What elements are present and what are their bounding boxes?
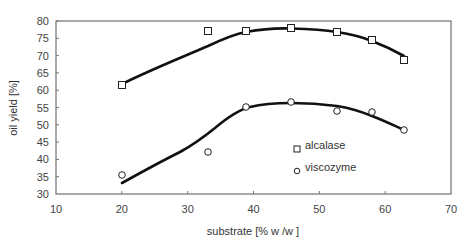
y-tick: 45 bbox=[37, 136, 49, 148]
square-marker bbox=[334, 29, 341, 36]
y-tick: 30 bbox=[37, 188, 49, 200]
circle-marker bbox=[205, 149, 212, 156]
y-axis: 80 75 70 65 60 55 50 45 40 35 30 oil yie… bbox=[7, 15, 59, 200]
x-tick: 10 bbox=[50, 203, 62, 215]
x-axis-label: substrate [% w /w ] bbox=[207, 225, 299, 237]
circle-marker bbox=[243, 104, 250, 111]
circle-marker bbox=[288, 99, 295, 106]
alcalase-markers bbox=[119, 25, 408, 89]
square-marker bbox=[119, 82, 126, 89]
legend-label-viscozyme: viscozyme bbox=[305, 161, 356, 173]
square-marker bbox=[243, 28, 250, 35]
circle-marker bbox=[334, 108, 341, 115]
y-tick: 55 bbox=[37, 102, 49, 114]
y-tick: 80 bbox=[37, 15, 49, 27]
x-tick: 50 bbox=[313, 203, 325, 215]
y-tick: 65 bbox=[37, 67, 49, 79]
viscozyme-fit-line bbox=[122, 103, 404, 183]
square-marker bbox=[205, 28, 212, 35]
x-axis: 10 20 30 40 50 60 70 substrate [% w /w ] bbox=[50, 191, 457, 237]
x-tick: 20 bbox=[116, 203, 128, 215]
x-tick: 30 bbox=[182, 203, 194, 215]
circle-marker bbox=[401, 127, 408, 134]
y-tick: 50 bbox=[37, 119, 49, 131]
viscozyme-markers bbox=[119, 99, 408, 179]
y-tick: 70 bbox=[37, 50, 49, 62]
circle-marker bbox=[119, 172, 126, 179]
x-tick: 70 bbox=[445, 203, 457, 215]
square-marker bbox=[401, 57, 408, 64]
y-tick: 60 bbox=[37, 84, 49, 96]
legend-circle-icon bbox=[294, 168, 300, 174]
legend-square-icon bbox=[294, 146, 300, 152]
alcalase-fit-line bbox=[122, 28, 404, 84]
square-marker bbox=[369, 37, 376, 44]
y-tick: 75 bbox=[37, 32, 49, 44]
y-tick: 35 bbox=[37, 171, 49, 183]
y-axis-label: oil yield [%] bbox=[7, 80, 19, 136]
circle-marker bbox=[369, 109, 376, 116]
legend: alcalase viscozyme bbox=[294, 139, 356, 174]
chart: 80 75 70 65 60 55 50 45 40 35 30 oil yie… bbox=[0, 0, 470, 245]
x-tick: 40 bbox=[247, 203, 259, 215]
y-tick: 40 bbox=[37, 153, 49, 165]
legend-label-alcalase: alcalase bbox=[305, 139, 345, 151]
x-tick: 60 bbox=[379, 203, 391, 215]
square-marker bbox=[288, 25, 295, 32]
